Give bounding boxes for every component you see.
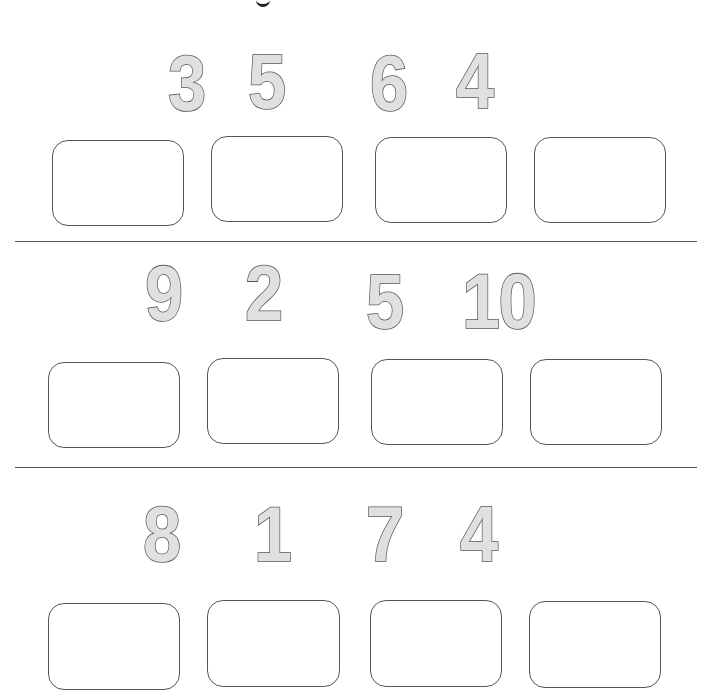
answer-box-1-3[interactable] (375, 137, 507, 223)
answer-box-1-2[interactable] (211, 136, 343, 222)
number-1-2: 5 (248, 42, 284, 120)
answer-box-3-3[interactable] (370, 600, 502, 687)
number-3-4: 4 (460, 495, 496, 573)
answer-box-1-1[interactable] (52, 140, 184, 226)
answer-box-2-3[interactable] (371, 359, 503, 445)
number-3-1: 8 (143, 495, 179, 573)
answer-box-2-4[interactable] (530, 359, 662, 445)
answer-box-2-2[interactable] (207, 358, 339, 444)
title-fragment (256, 0, 270, 7)
number-1-1: 3 (168, 44, 204, 122)
number-2-2: 2 (245, 254, 281, 332)
number-1-4: 4 (456, 42, 492, 120)
number-1-3: 6 (370, 44, 406, 122)
number-3-3: 7 (366, 495, 402, 573)
number-3-2: 1 (254, 495, 290, 573)
answer-box-3-2[interactable] (207, 600, 340, 687)
divider-1 (15, 241, 697, 242)
number-2-3: 5 (366, 262, 402, 340)
answer-box-2-1[interactable] (48, 362, 180, 448)
number-2-4: 10 (462, 262, 535, 340)
answer-box-1-4[interactable] (534, 137, 666, 223)
answer-box-3-4[interactable] (529, 601, 661, 688)
answer-box-3-1[interactable] (48, 603, 180, 690)
number-2-1: 9 (145, 254, 181, 332)
divider-2 (15, 467, 697, 468)
